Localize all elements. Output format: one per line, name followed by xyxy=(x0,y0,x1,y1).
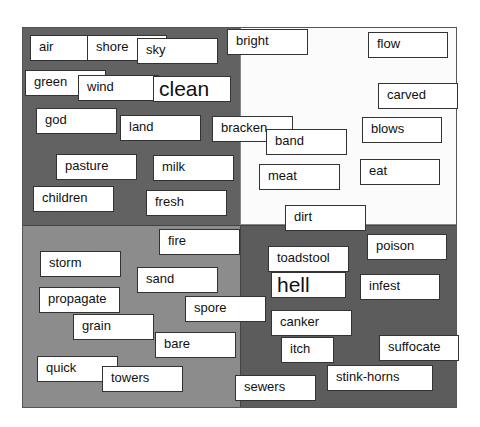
word-card-pasture[interactable]: pasture xyxy=(56,154,137,180)
word-card-propagate[interactable]: propagate xyxy=(39,287,120,313)
word-card-grain[interactable]: grain xyxy=(73,314,154,340)
word-card-towers[interactable]: towers xyxy=(102,366,183,392)
word-card-flow[interactable]: flow xyxy=(368,32,448,58)
word-card-storm[interactable]: storm xyxy=(40,251,121,277)
word-card-bare[interactable]: bare xyxy=(155,332,236,358)
word-card-carved[interactable]: carved xyxy=(378,83,458,109)
word-card-clean[interactable]: clean xyxy=(153,76,231,102)
word-card-poison[interactable]: poison xyxy=(367,234,447,260)
word-card-fresh[interactable]: fresh xyxy=(146,190,227,216)
word-card-toadstool[interactable]: toadstool xyxy=(268,246,349,272)
word-card-canker[interactable]: canker xyxy=(271,310,352,336)
word-card-spore[interactable]: spore xyxy=(185,296,266,322)
word-card-dirt[interactable]: dirt xyxy=(285,205,366,231)
word-card-wind[interactable]: wind xyxy=(78,75,159,101)
word-card-itch[interactable]: itch xyxy=(281,337,334,363)
word-card-air[interactable]: air xyxy=(30,35,92,61)
word-card-eat[interactable]: eat xyxy=(360,159,440,185)
word-card-blows[interactable]: blows xyxy=(362,117,442,143)
word-card-children[interactable]: children xyxy=(33,186,114,212)
word-card-suffocate[interactable]: suffocate xyxy=(379,335,459,361)
word-card-fire[interactable]: fire xyxy=(159,229,240,255)
word-card-sky[interactable]: sky xyxy=(137,38,218,64)
word-card-land[interactable]: land xyxy=(120,115,201,141)
word-card-infest[interactable]: infest xyxy=(360,274,440,300)
word-card-sewers[interactable]: sewers xyxy=(235,375,316,401)
word-card-band[interactable]: band xyxy=(266,129,347,155)
word-card-milk[interactable]: milk xyxy=(153,155,234,181)
word-card-bright[interactable]: bright xyxy=(227,29,308,55)
word-card-god[interactable]: god xyxy=(36,108,117,134)
word-card-meat[interactable]: meat xyxy=(259,164,340,190)
word-card-hell[interactable]: hell xyxy=(271,272,346,298)
word-card-stink-horns[interactable]: stink-horns xyxy=(327,365,433,391)
word-card-sand[interactable]: sand xyxy=(137,267,218,293)
